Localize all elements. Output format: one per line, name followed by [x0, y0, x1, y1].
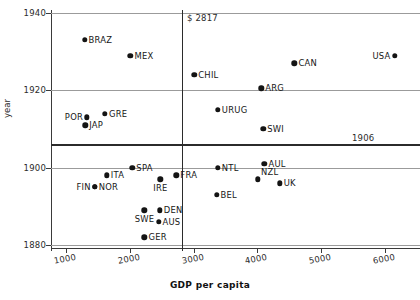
point-label-chil: CHIL	[198, 70, 218, 80]
y-tick-label: 1880	[6, 240, 46, 250]
point-label-ire: IRE	[153, 183, 167, 193]
x-tick-label: 4000	[244, 252, 268, 266]
point-label-swi: SWI	[267, 124, 284, 134]
x-tick-label: 6000	[372, 252, 396, 266]
x-tick-label: 2000	[117, 252, 141, 266]
point-label-braz: BRAZ	[89, 35, 113, 45]
data-point-spa	[130, 165, 135, 170]
data-point-uk	[277, 180, 282, 185]
data-point-jap	[82, 122, 87, 127]
data-point-ger	[142, 235, 147, 240]
point-label-ntl: NTL	[222, 163, 239, 173]
data-point-den	[157, 207, 162, 212]
point-label-por: POR	[65, 112, 83, 122]
point-label-aus: AUS	[163, 217, 181, 227]
point-label-spa: SPA	[136, 163, 152, 173]
data-point-bel	[214, 192, 219, 197]
data-point-nzl	[255, 177, 260, 182]
data-point-aul	[262, 161, 267, 166]
annotation-year-threshold: 1906	[352, 133, 374, 143]
data-point-aus	[156, 219, 161, 224]
point-label-ger: GER	[148, 232, 166, 242]
point-label-can: CAN	[298, 58, 317, 68]
data-point-fra	[174, 173, 179, 178]
point-label-ita: ITA	[111, 170, 124, 180]
point-label-urug: URUG	[222, 105, 248, 115]
x-axis-line	[51, 248, 420, 249]
point-label-nzl: NZL	[261, 167, 278, 177]
data-point-mex	[128, 53, 133, 58]
x-tick-label: 1000	[53, 252, 77, 266]
gridline-y-1920	[51, 90, 420, 91]
x-tick-label: 3000	[181, 252, 205, 266]
data-point-ire	[158, 177, 163, 182]
y-tick-label: 1900	[6, 163, 46, 173]
y-tick-label: 1920	[6, 85, 46, 95]
data-point-urug	[215, 107, 220, 112]
y-tick-mark	[46, 168, 51, 169]
point-label-mex: MEX	[134, 51, 153, 61]
data-point-chil	[192, 72, 197, 77]
gridline-y-1940	[51, 13, 420, 14]
data-point-swe	[142, 207, 147, 212]
annotation-gdp-threshold: $ 2817	[187, 13, 218, 23]
data-point-braz	[82, 37, 87, 42]
point-label-fra: FRA	[180, 170, 197, 180]
data-point-usa	[392, 53, 397, 58]
gridline-y-1880	[51, 245, 420, 246]
data-point-fin	[92, 184, 97, 189]
data-point-swi	[260, 126, 265, 131]
point-label-den: DEN	[164, 205, 183, 215]
y-tick-label: 1940	[6, 8, 46, 18]
data-point-ntl	[215, 165, 220, 170]
scatter-chart: 1880190019201940 10002000300040005000600…	[0, 0, 420, 300]
y-axis-line	[51, 10, 52, 251]
point-label-fin: FIN	[76, 182, 90, 192]
y-axis-title: year	[2, 99, 12, 118]
x-tick-label: 5000	[308, 252, 332, 266]
point-label-jap: JAP	[89, 120, 103, 130]
data-point-gre	[102, 111, 107, 116]
data-point-ita	[104, 173, 109, 178]
point-label-arg: ARG	[265, 83, 284, 93]
y-tick-mark	[46, 13, 51, 14]
point-label-bel: BEL	[221, 190, 237, 200]
point-label-swe: SWE	[135, 214, 155, 224]
point-label-nor: NOR	[99, 182, 118, 192]
point-label-usa: USA	[372, 51, 390, 61]
y-tick-mark	[46, 90, 51, 91]
x-axis-title: GDP per capita	[0, 280, 420, 290]
data-point-can	[292, 61, 297, 66]
point-label-gre: GRE	[109, 109, 127, 119]
point-label-uk: UK	[284, 178, 296, 188]
y-tick-mark	[46, 245, 51, 246]
horizontal-year-line	[51, 144, 420, 146]
